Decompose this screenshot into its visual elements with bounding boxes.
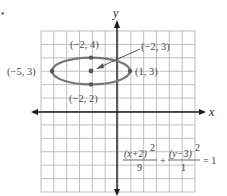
y-axis: y xyxy=(112,6,120,196)
ellipse-equation: (x+2) 2 9 + (y−3) 2 1 = 1 xyxy=(122,142,227,177)
eq-term2-exponent: 2 xyxy=(195,142,200,153)
label-bottom-covertex: (−2, 2) xyxy=(69,93,98,105)
y-axis-label: y xyxy=(112,6,119,20)
point-right-vertex xyxy=(128,69,132,73)
x-axis-right-arrow-icon xyxy=(199,109,206,115)
problem-marker: • xyxy=(0,9,5,19)
eq-term2-denominator: 1 xyxy=(181,162,186,173)
point-top-covertex xyxy=(89,55,93,59)
point-bottom-covertex xyxy=(89,82,93,86)
eq-term1-numerator: (x+2) xyxy=(124,148,148,160)
x-axis-left-arrow-icon xyxy=(31,109,38,115)
eq-rhs: = 1 xyxy=(203,155,216,166)
x-axis: x xyxy=(31,105,215,119)
y-axis-down-arrow-icon xyxy=(114,189,120,196)
point-center xyxy=(89,69,94,74)
label-left-vertex: (−5, 3) xyxy=(7,66,36,78)
eq-term1-denominator: 9 xyxy=(137,162,142,173)
label-top-covertex: (−2, 4) xyxy=(70,39,99,51)
eq-plus: + xyxy=(160,155,166,166)
x-axis-label: x xyxy=(208,105,215,119)
y-axis-up-arrow-icon xyxy=(114,20,120,28)
label-center: (−2, 3) xyxy=(141,41,170,53)
eq-term2-numerator: (y−3) xyxy=(169,148,193,160)
label-right-vertex: (1, 3) xyxy=(135,66,158,78)
eq-term1-exponent: 2 xyxy=(150,142,155,153)
ellipse-graph: • x y (−5, 3) (1, 3) (−2, 4) (−2, 2) (−2… xyxy=(0,0,227,196)
point-left-vertex xyxy=(50,69,54,73)
